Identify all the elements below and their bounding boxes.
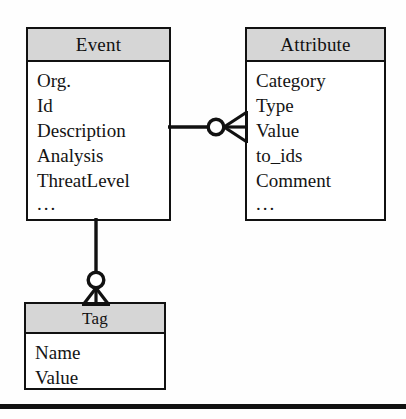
field-row: Value: [35, 365, 164, 390]
entity-tag-title: Tag: [82, 310, 108, 327]
entity-event-fields: Org. Id Description Analysis ThreatLevel…: [28, 62, 169, 219]
entity-event-header: Event: [28, 29, 169, 62]
diagram-canvas: Event Org. Id Description Analysis Threa…: [0, 0, 406, 419]
cardinality-zero-circle-icon: [88, 272, 104, 288]
relationship-event-attribute[interactable]: [168, 108, 248, 146]
field-row: Category: [256, 68, 384, 93]
field-row: to_ids: [256, 143, 384, 168]
field-row: Comment: [256, 168, 384, 193]
cardinality-zero-circle-icon: [208, 119, 224, 135]
cardinality-many-crowsfoot-icon: [82, 288, 110, 305]
field-row: Description: [37, 118, 169, 143]
cardinality-many-crowsfoot-icon: [224, 111, 247, 143]
entity-attribute[interactable]: Attribute Category Type Value to_ids Com…: [245, 27, 386, 221]
entity-attribute-header: Attribute: [247, 29, 384, 62]
entity-event[interactable]: Event Org. Id Description Analysis Threa…: [26, 27, 171, 221]
entity-event-title: Event: [76, 35, 121, 54]
field-row: Analysis: [37, 143, 169, 168]
relationship-event-tag[interactable]: [74, 218, 118, 306]
field-row: Type: [256, 93, 384, 118]
field-row-more: ...: [256, 193, 384, 215]
field-row: Name: [35, 340, 164, 365]
entity-tag-fields: Name Value: [26, 334, 164, 394]
field-row: Id: [37, 93, 169, 118]
bottom-rule-divider: [0, 404, 406, 409]
entity-attribute-fields: Category Type Value to_ids Comment ...: [247, 62, 384, 219]
field-row: ThreatLevel: [37, 168, 169, 193]
field-row: Value: [256, 118, 384, 143]
entity-tag[interactable]: Tag Name Value: [24, 302, 166, 390]
entity-tag-header: Tag: [26, 304, 164, 334]
entity-attribute-title: Attribute: [280, 35, 350, 54]
field-row: Org.: [37, 68, 169, 93]
field-row-more: ...: [37, 193, 169, 215]
